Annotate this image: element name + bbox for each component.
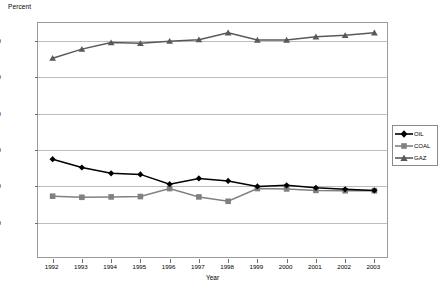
x-axis-title: Year xyxy=(0,274,425,281)
y-axis-tick-label: 20.0 xyxy=(0,182,1,189)
y-axis-tick-label: 10.0 xyxy=(0,218,1,225)
data-point-marker xyxy=(196,175,202,181)
legend-swatch-oil xyxy=(395,128,413,140)
series-line xyxy=(53,159,375,190)
chart-legend: OIL COAL GAZ xyxy=(392,125,438,166)
x-axis-tick-label: 2003 xyxy=(355,263,391,270)
data-point-marker xyxy=(225,178,231,184)
chart-container: Percent 10.020.030.040.050.060.0 1992199… xyxy=(0,0,445,292)
data-point-marker xyxy=(225,198,231,204)
y-axis-tick-label: 60.0 xyxy=(0,37,1,44)
legend-swatch-gaz xyxy=(395,152,413,164)
legend-label-coal: COAL xyxy=(414,143,430,149)
data-point-marker xyxy=(108,194,114,200)
y-axis-tick-label: 40.0 xyxy=(0,109,1,116)
data-point-marker xyxy=(108,170,114,176)
data-point-marker xyxy=(225,30,232,36)
data-point-marker xyxy=(50,156,56,162)
legend-label-oil: OIL xyxy=(414,131,424,137)
legend-item-coal: COAL xyxy=(395,140,437,152)
y-axis-title: Percent xyxy=(8,3,31,10)
data-point-marker xyxy=(79,194,85,200)
plot-area xyxy=(37,22,388,258)
data-point-marker xyxy=(196,194,202,200)
data-point-marker xyxy=(138,194,144,200)
data-point-marker xyxy=(137,171,143,177)
legend-label-gaz: GAZ xyxy=(414,155,426,161)
series-layer xyxy=(38,23,389,259)
y-axis-tick-label: 50.0 xyxy=(0,73,1,80)
legend-swatch-coal xyxy=(395,140,413,152)
data-point-marker xyxy=(50,193,56,199)
series-line xyxy=(53,33,375,58)
series-line xyxy=(53,189,375,202)
series-oil xyxy=(50,156,378,193)
series-gaz xyxy=(49,30,378,61)
legend-item-gaz: GAZ xyxy=(395,152,437,164)
legend-item-oil: OIL xyxy=(395,128,437,140)
data-point-marker xyxy=(79,164,85,170)
y-axis-tick-label: 30.0 xyxy=(0,146,1,153)
